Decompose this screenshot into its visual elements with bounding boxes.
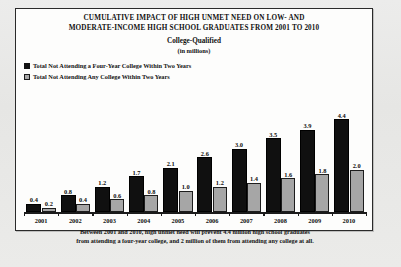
chart-units-label: (in millions): [16, 46, 372, 55]
bar-four-year: [163, 168, 178, 212]
bar-four-year: [300, 130, 315, 212]
legend-swatch-dark-icon: [24, 63, 30, 69]
bar-value-label-any-college: 1.2: [212, 179, 228, 186]
bar-value-label-four-year: 1.2: [94, 179, 111, 186]
x-axis-tick: [58, 212, 59, 216]
x-axis-label: 2007: [229, 217, 263, 224]
bar-any-college: [179, 191, 193, 212]
bar-value-label-any-college: 1.8: [314, 167, 330, 174]
bar-group: 2.11.0: [163, 111, 193, 212]
bar-four-year: [95, 187, 110, 212]
bar-group: 3.01.4: [232, 111, 262, 212]
chart-footer: Between 2001 and 2010, high unmet need w…: [26, 228, 364, 245]
bar-value-label-four-year: 0.4: [25, 196, 42, 203]
x-axis-tick: [24, 212, 25, 216]
bar-four-year: [334, 119, 349, 212]
x-axis-label: 2001: [24, 217, 58, 224]
x-axis-tick: [195, 212, 196, 216]
bar-value-label-any-college: 0.6: [109, 192, 125, 199]
bar-value-label-any-college: 2.0: [349, 162, 365, 169]
chart-subtitle: College-Qualified: [16, 36, 372, 46]
bar-value-label-four-year: 2.1: [162, 160, 179, 167]
x-axis-tick: [298, 212, 299, 216]
bar-value-label-four-year: 4.4: [333, 112, 350, 119]
bar-four-year: [232, 149, 247, 212]
bar-any-college: [315, 174, 329, 212]
bar-four-year: [266, 138, 281, 212]
bar-four-year: [26, 204, 41, 212]
chart-title-line-2: MODERATE-INCOME HIGH SCHOOL GRADUATES FR…: [16, 24, 372, 34]
bar-group: 2.61.2: [197, 111, 227, 212]
x-axis-label: 2008: [263, 217, 297, 224]
bar-any-college: [110, 199, 124, 212]
x-axis-label: 2006: [195, 217, 229, 224]
bar-four-year: [197, 157, 212, 212]
bar-group: 0.80.4: [61, 111, 91, 212]
chart-frame: CUMULATIVE IMPACT OF HIGH UNMET NEED ON …: [15, 8, 373, 231]
x-axis-tick: [263, 212, 264, 216]
plot-area: 0.40.20.80.41.20.61.70.82.11.02.61.23.01…: [24, 111, 366, 212]
legend-label-four-year: Total Not Attending a Four-Year College …: [33, 61, 191, 71]
legend-label-any-college: Total Not Attending Any College Within T…: [33, 72, 170, 82]
bar-group: 3.51.6: [266, 111, 296, 212]
bar-four-year: [129, 176, 144, 212]
footer-line-1: Between 2001 and 2010, high unmet need w…: [26, 228, 364, 237]
bar-value-label-four-year: 3.0: [231, 141, 248, 148]
x-axis-tick: [332, 212, 333, 216]
x-axis-label: 2005: [161, 217, 195, 224]
bar-value-label-four-year: 0.8: [60, 188, 77, 195]
bar-value-label-any-college: 1.0: [178, 183, 194, 190]
bar-four-year: [61, 195, 76, 212]
bar-value-label-four-year: 1.7: [128, 169, 145, 176]
x-axis-label: 2003: [92, 217, 126, 224]
bar-group: 4.42.0: [334, 111, 364, 212]
bar-group: 1.70.8: [129, 111, 159, 212]
x-axis-label: 2002: [58, 217, 92, 224]
bar-any-college: [213, 187, 227, 212]
bar-value-label-any-college: 1.4: [246, 175, 262, 182]
bar-any-college: [350, 170, 364, 212]
x-axis-label: 2004: [127, 217, 161, 224]
bar-group: 0.40.2: [26, 111, 56, 212]
bar-value-label-any-college: 0.2: [41, 200, 57, 207]
legend-swatch-light-icon: [24, 74, 30, 80]
bar-any-college: [281, 178, 295, 212]
legend-item-four-year: Total Not Attending a Four-Year College …: [24, 61, 372, 71]
bar-value-label-any-college: 0.4: [75, 196, 91, 203]
bar-any-college: [247, 183, 261, 212]
bar-group: 3.91.8: [300, 111, 330, 212]
bar-any-college: [144, 195, 158, 212]
x-axis-tick: [366, 212, 367, 216]
legend-item-any-college: Total Not Attending Any College Within T…: [24, 72, 372, 82]
chart-legend: Total Not Attending a Four-Year College …: [24, 61, 372, 82]
x-axis-label: 2010: [332, 217, 366, 224]
chart-title-block: CUMULATIVE IMPACT OF HIGH UNMET NEED ON …: [16, 9, 372, 55]
x-axis-label: 2009: [298, 217, 332, 224]
bar-value-label-any-college: 0.8: [143, 188, 159, 195]
x-axis-tick: [161, 212, 162, 216]
x-axis-tick: [127, 212, 128, 216]
bar-value-label-four-year: 3.9: [299, 122, 316, 129]
x-axis-tick: [92, 212, 93, 216]
bar-value-label-any-college: 1.6: [280, 171, 296, 178]
x-axis-tick: [229, 212, 230, 216]
bar-value-label-four-year: 2.6: [196, 150, 213, 157]
footer-line-2: from attending a four-year college, and …: [26, 237, 364, 246]
bar-any-college: [76, 204, 90, 212]
chart-title-line-1: CUMULATIVE IMPACT OF HIGH UNMET NEED ON …: [16, 14, 372, 24]
bar-value-label-four-year: 3.5: [265, 131, 282, 138]
bar-group: 1.20.6: [95, 111, 125, 212]
